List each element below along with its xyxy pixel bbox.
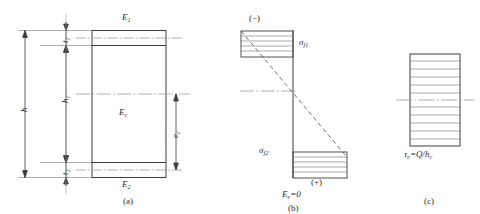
- top-face-stress-block: [241, 31, 293, 57]
- label-thickness-top: t1: [61, 37, 71, 43]
- label-thickness-bottom: t2: [61, 169, 71, 175]
- face-core-interfaces: [92, 46, 166, 163]
- label-bottom-face-stress: σf2: [259, 146, 268, 156]
- label-bottom-face-modulus: E2: [122, 180, 131, 190]
- label-centroid-offset: ec: [171, 131, 181, 138]
- bottom-face-stress-block: [293, 152, 347, 178]
- label-top-face-modulus: E1: [122, 13, 131, 23]
- label-total-height: h: [20, 108, 29, 113]
- dimension-total-height: [23, 31, 28, 178]
- panel-tag-b: (b): [288, 203, 299, 213]
- panel-tag-a: (a): [123, 196, 133, 206]
- label-core-modulus-assumption: Ec=0: [282, 190, 301, 200]
- panel-a: [18, 14, 190, 194]
- panel-a-extension-lines: [18, 31, 92, 178]
- label-sign-negative: (−): [249, 14, 260, 23]
- cross-section-outline: [92, 31, 166, 178]
- label-core-modulus: Ec: [119, 108, 127, 118]
- label-top-face-stress: σf1: [299, 38, 308, 48]
- panel-tag-c: (c): [424, 196, 434, 206]
- label-core-height: hc: [61, 96, 71, 103]
- panel-b: [240, 30, 347, 178]
- panel-c: [396, 54, 474, 146]
- label-sign-positive: (+): [311, 178, 322, 187]
- label-shear-stress-formula: τc=Q/hc: [404, 150, 432, 160]
- engineering-figure: [0, 0, 480, 214]
